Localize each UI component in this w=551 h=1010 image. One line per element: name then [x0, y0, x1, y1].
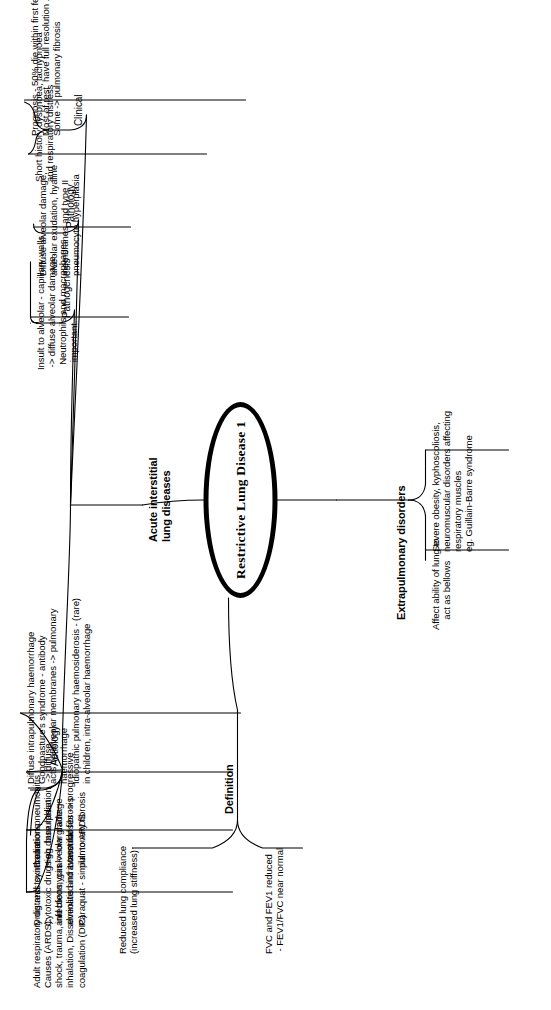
- branch-label-extrapulmonary[interactable]: Extrapulmonary disorders: [394, 485, 407, 620]
- mind-map-canvas: Restrictive Lung Disease 1 Definition Ac…: [0, 0, 551, 1010]
- root-node-label: Restrictive Lung Disease 1: [232, 421, 248, 579]
- edge-definition-leaf-1: [132, 820, 237, 848]
- leaf-extra-bellows[interactable]: Affect ability of lung to act as bellows: [429, 539, 451, 630]
- leaf-extra-causes[interactable]: Severe obesity, kyphoscoliosis, neuromus…: [429, 411, 474, 552]
- edge-extra-fork-1: [408, 500, 425, 560]
- edge-root-definition: [228, 598, 237, 710]
- edge-extra-fork-2: [408, 450, 425, 500]
- edge-definition-leaf-2: [237, 820, 302, 848]
- leaf-clinical-prognosis[interactable]: Prognosis - 50% die within first few day…: [28, 0, 61, 136]
- branch-label-definition[interactable]: Definition: [222, 764, 235, 814]
- leaf-aetiology-haemorrhage[interactable]: Diffuse intrapulmonary haemorrhage Goodp…: [24, 598, 91, 784]
- root-node[interactable]: Restrictive Lung Disease 1: [203, 402, 277, 598]
- branch-label-acute-interstitial[interactable]: Acute interstitial lung diseases: [146, 458, 172, 542]
- leaf-def-compliance[interactable]: Reduced lung compliance (increased lung …: [116, 846, 138, 954]
- leaf-def-spirometry[interactable]: FVC and FEV1 reduced - FEV1/FVC near nor…: [262, 848, 284, 954]
- sub-branch-label-clinical[interactable]: Clinical: [72, 95, 84, 126]
